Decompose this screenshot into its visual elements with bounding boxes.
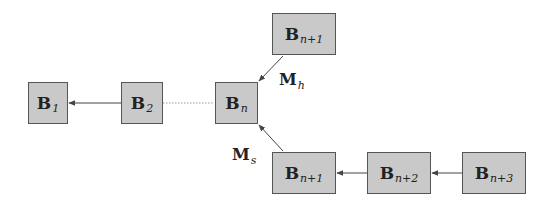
block-b2: B2	[121, 82, 163, 124]
block-b1: B1	[28, 82, 68, 124]
block-bn-plus-2: Bn+2	[367, 152, 431, 194]
block-bn-plus-1-top: Bn+1	[272, 13, 336, 55]
block-bn-plus-1-bottom: Bn+1	[272, 152, 336, 194]
edge-label-ms: Ms	[232, 145, 256, 164]
edge-bn1-bottom-to-bn	[259, 125, 283, 151]
edge-label-mh: Mh	[279, 70, 305, 89]
blockchain-fork-diagram: B1 B2 Bn Bn+1 Bn+1 Bn+2 Bn+3 Mh Ms	[0, 0, 552, 206]
block-bn: Bn	[215, 82, 258, 124]
block-bn-plus-3: Bn+3	[462, 152, 526, 194]
